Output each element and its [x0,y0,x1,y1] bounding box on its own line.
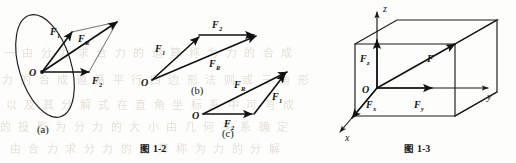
f1-letter: F [49,26,57,37]
plane-ellipse [5,8,86,125]
part-label-c: (c) [222,128,234,140]
f2-subscript: 2 [98,81,103,88]
caption-prefix: 图 [404,143,414,154]
f2-letter: F [211,19,219,30]
origin-label-a: O [29,67,36,78]
origin-label-3d: O [362,84,369,95]
label-fz-3d: F z [359,53,370,66]
fr-letter: F [233,79,241,90]
fz-subscript: z [366,59,370,66]
figure-1-2-part-a: O F 1 F R F 2 (a) [5,8,117,136]
fr-subscript: R [240,85,246,92]
figure-1-3: O z y x F F z F x F y [340,3,497,143]
label-f1-b: F 1 [154,43,165,56]
fx-subscript: x [372,105,377,112]
fy-subscript: y [420,105,424,112]
label-fy-3d: F y [413,99,424,112]
fr-subscript: R [215,64,221,71]
label-f1-a: F 1 [49,26,60,39]
origin-dot [40,70,44,74]
part-label-b: (b) [191,85,204,97]
caption-prefix: 图 [140,143,150,154]
x-axis-label: x [344,132,350,143]
f1-subscript: 1 [162,49,165,56]
figure-page: 一 由 分 力 求 合 力 的 运 算 称 为 力 的 合 成 力 的 合 成 … [0,0,516,163]
fz-letter: F [359,53,367,64]
part-label-a: (a) [37,124,49,136]
fy-letter: F [413,99,421,110]
caption-number: 1-3 [417,143,430,154]
origin-label-b: O [141,77,148,88]
y-axis-label: y [486,91,492,102]
f1-letter: F [271,91,279,102]
fr-letter: F [77,33,85,44]
label-f2-b: F 2 [211,19,223,32]
vector-fr-arrow-b [152,36,256,80]
vector-f-arrow [377,44,455,88]
f1-subscript: 1 [57,32,60,39]
f1-letter: F [154,43,162,54]
f1-subscript: 1 [279,97,282,104]
label-f2-a: F 2 [91,75,103,88]
f2-letter: F [91,75,99,86]
label-f-3d: F [426,53,434,64]
z-axis-label: z [382,3,387,14]
caption-number: 1-2 [153,143,166,154]
parallelogram-side-right [89,22,117,72]
origin-label-c: O [192,110,199,121]
figures-svg: O F 1 F R F 2 (a) O F 1 [0,0,516,163]
label-fr-c: F R [233,79,246,92]
fx-letter: F [365,99,373,110]
label-fx-3d: F x [365,99,377,112]
figure-1-2-part-c: O F R F 1 F 2 (c) [192,72,287,140]
f2-subscript: 2 [218,25,223,32]
fr-letter: F [208,58,216,69]
f-letter: F [426,53,434,64]
label-f1-c: F 1 [271,91,282,104]
fr-subscript: R [84,39,90,46]
caption-figure-1-3: 图 1-3 [404,143,430,154]
caption-figure-1-2: 图 1-2 [140,143,166,154]
label-fr-b: F R [208,58,221,71]
